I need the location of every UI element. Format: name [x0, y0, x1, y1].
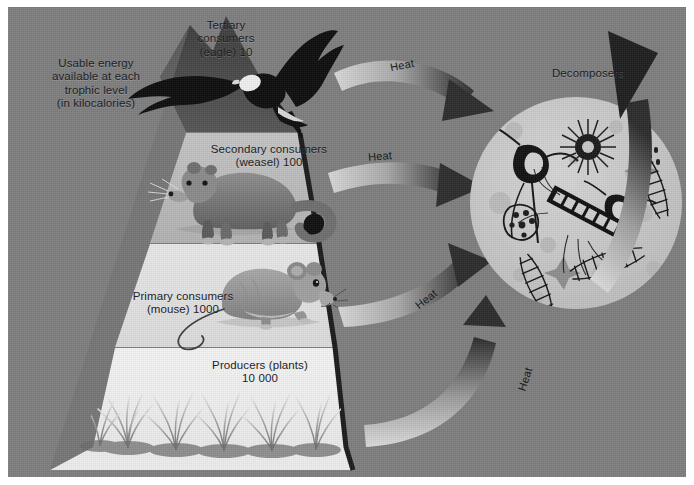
pyramid-label-tertiary: Tertiary consumers (eagle) 10	[166, 19, 286, 59]
pyramid-label-producers: Producers (plants) 10 000	[180, 359, 340, 386]
decomposers-label: Decomposers	[533, 67, 643, 80]
heat-arrow-primary	[338, 243, 492, 327]
pyramid-label-primary: Primary consumers (mouse) 1000	[108, 290, 258, 317]
energy-pyramid-figure: Usable energy available at each trophic …	[0, 0, 694, 485]
mouse-ear-right	[306, 262, 322, 276]
weasel-eye-left	[186, 180, 191, 185]
heat-arrow-tertiary	[334, 61, 494, 121]
weasel-eye-right	[202, 180, 207, 185]
mouse-eye	[313, 279, 319, 287]
heat-arrows	[328, 61, 506, 447]
pyramid-label-secondary: Secondary consumers (weasel) 100	[184, 143, 354, 170]
heliozoan-sun-animalcule	[560, 119, 616, 175]
heat-label-secondary: Heat	[368, 149, 393, 163]
usable-energy-caption: Usable energy available at each trophic …	[26, 57, 166, 111]
mouse-nose	[333, 297, 337, 301]
illustration-plate: Usable energy available at each trophic …	[8, 7, 686, 477]
weasel-nose	[169, 192, 174, 197]
